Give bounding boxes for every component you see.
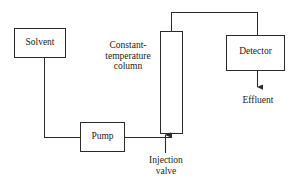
pipe-pump-to-column <box>125 134 172 138</box>
injection-valve-label-line2: valve <box>156 166 177 176</box>
effluent-label: Effluent <box>228 95 288 106</box>
pump-label: Pump <box>80 131 125 142</box>
hplc-flow-diagram: Solvent Pump Detector Constant- temperat… <box>0 0 297 195</box>
pipe-column-to-detector <box>172 13 258 36</box>
column-label-line1: Constant- <box>110 40 147 50</box>
column-label-line2: temperature <box>105 51 150 61</box>
detector-label: Detector <box>226 46 285 57</box>
pipe-solvent-to-pump <box>45 58 81 138</box>
column-label-line3: column <box>114 61 143 71</box>
injection-valve-label: Injection valve <box>135 155 197 176</box>
column-box <box>161 32 183 134</box>
solvent-label: Solvent <box>14 37 66 48</box>
injection-valve-label-line1: Injection <box>149 155 183 165</box>
column-label: Constant- temperature column <box>97 40 159 72</box>
